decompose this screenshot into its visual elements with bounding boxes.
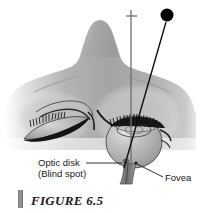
figure-caption: FIGURE 6.5: [30, 193, 104, 208]
fovea-label: Fovea: [165, 172, 192, 183]
optic-disk-label-line2: (Blind spot): [38, 168, 86, 179]
nose-shading: [82, 21, 119, 57]
eye-blindspot-diagram: Optic disk (Blind spot) Fovea FIGURE 6.5: [0, 0, 206, 213]
stimulus-dot: [161, 9, 174, 22]
figure-container: Optic disk (Blind spot) Fovea FIGURE 6.5: [0, 0, 206, 213]
optic-disk-label-line1: Optic disk: [38, 157, 80, 168]
fovea-leader: [137, 164, 163, 177]
caption-accent-bar: [18, 190, 23, 208]
